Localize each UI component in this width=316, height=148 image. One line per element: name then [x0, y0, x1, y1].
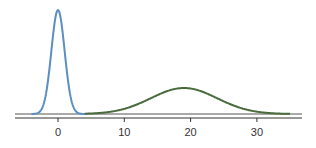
- x-tick-label: 20: [184, 126, 196, 138]
- x-tick-label: 10: [118, 126, 130, 138]
- x-tick-label: 0: [55, 126, 61, 138]
- blue-density-curve: [31, 10, 84, 114]
- green-density-curve: [85, 88, 291, 114]
- density-chart: 0102030: [0, 0, 316, 148]
- x-axis-ticks: 0102030: [55, 118, 263, 138]
- x-tick-label: 30: [251, 126, 263, 138]
